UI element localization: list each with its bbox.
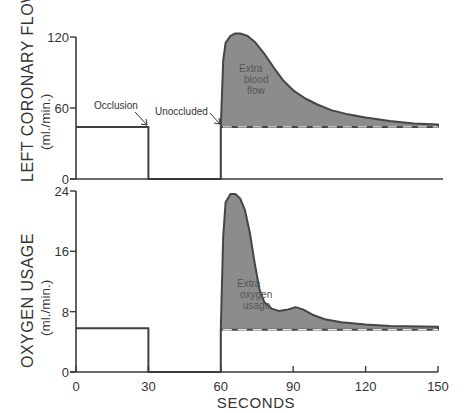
bottom-y-axis-title: OXYGEN USAGE [19,233,36,368]
x-tick-label: 60 [214,379,228,394]
x-axis-title: SECONDS [217,394,295,411]
top-area-label: flow [247,85,266,96]
top-panel-coronary-flow: 060120ExtrabloodflowOcclusionUnoccluded [47,30,443,187]
bottom-y-tick-label: 16 [55,244,69,259]
x-tick-label: 30 [141,379,155,394]
unoccluded-annotation: Unoccluded [155,106,208,117]
top-y-axis-unit: (ml./min.) [38,94,53,150]
x-tick-label: 90 [286,379,300,394]
top-area-label: blood [244,74,268,85]
bottom-area-label: usage [243,300,271,311]
top-step-trace [76,127,221,179]
bottom-step-trace [76,328,221,372]
x-tick-label: 120 [355,379,377,394]
occlusion-arrow-icon [135,112,147,125]
x-tick-label: 0 [72,379,79,394]
top-y-tick-label: 120 [47,30,69,45]
coronary-flow-oxygen-chart: LEFT CORONARY FLOW (ml./min.) OXYGEN USA… [0,0,467,413]
x-tick-label: 150 [427,379,449,394]
unoccluded-arrow-icon [210,113,220,124]
top-y-axis-title: LEFT CORONARY FLOW [19,0,36,182]
occlusion-annotation: Occlusion [94,100,138,111]
bottom-area-label: Extra [237,278,261,289]
bottom-y-tick-label: 24 [55,184,69,199]
top-y-tick-label: 60 [55,101,69,116]
bottom-y-tick-label: 0 [62,365,69,380]
bottom-area-label: oxygen [240,289,272,300]
bottom-y-tick-label: 8 [62,305,69,320]
bottom-y-axis-unit: (ml./min.) [38,280,53,336]
bottom-panel-oxygen-usage: 0816240306090120150Extraoxygenusage [55,184,449,394]
top-area-label: Extra [239,63,263,74]
